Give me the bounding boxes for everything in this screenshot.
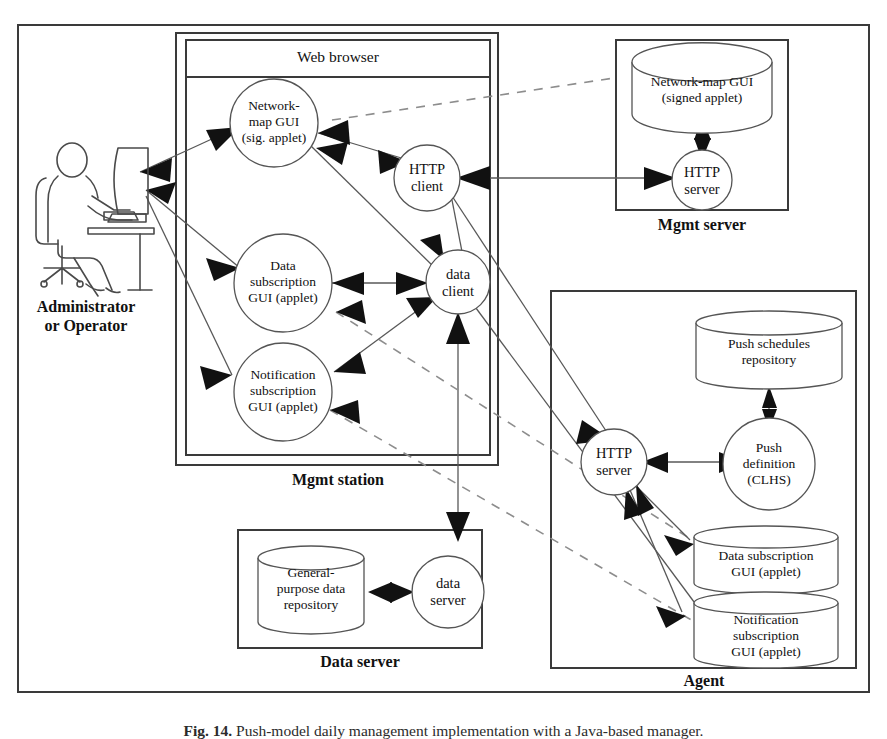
data-subscription-gui-label-2: subscription — [250, 274, 316, 289]
node-agent-data-subscription-gui[interactable]: Data subscription GUI (applet) — [694, 526, 838, 594]
arrowhead-to-mgmthttpserver — [644, 167, 676, 190]
person-leg2-icon — [74, 258, 98, 296]
person-foot2-icon — [86, 284, 104, 290]
push-definition-label-3: (CLHS) — [747, 472, 791, 487]
general-purpose-data-repository-label-2: purpose data — [277, 581, 346, 596]
node-network-map-gui-repo[interactable]: Network-map GUI (signed applet) — [632, 43, 772, 134]
push-definition-label-1: Push — [756, 440, 783, 455]
node-agent-http-server[interactable]: HTTP server — [581, 429, 647, 495]
arrowhead-to-notifsub-2 — [330, 400, 360, 424]
person-front-icon — [86, 176, 98, 198]
data-server-title: Data server — [320, 653, 400, 670]
general-purpose-data-repository-label-1: General- — [287, 565, 335, 580]
arrowhead-to-datasub-from-dataclient — [332, 272, 364, 295]
figure-caption-text: Push-model daily management implementati… — [236, 722, 703, 739]
figure-caption-label: Fig. 14. — [184, 722, 233, 739]
mgmt-server-title: Mgmt server — [658, 216, 746, 234]
arrowhead-to-httpclient-from-mgmtserver — [456, 166, 490, 190]
agent-data-subscription-gui-label-1: Data subscription — [719, 548, 814, 563]
web-browser-box — [186, 40, 490, 455]
node-notification-subscription-gui[interactable]: Notification subscription GUI (applet) — [234, 343, 332, 441]
administrator-label-line1: Administrator — [37, 298, 136, 315]
agent-notification-subscription-gui-label-1: Notification — [733, 612, 798, 627]
person-leg-icon — [58, 240, 112, 290]
arrowhead-to-agenthttp-from-guis-2 — [636, 484, 654, 516]
notification-subscription-gui-label-3: GUI (applet) — [248, 399, 317, 414]
connector-agenthttp-datasubgui — [636, 486, 690, 540]
arrowhead-to-networkmap-from-dataclient — [316, 142, 348, 165]
mgmt-http-server-label-1: HTTP — [684, 164, 720, 180]
node-data-server[interactable]: data server — [412, 556, 484, 628]
figure-root: Web browser — [0, 0, 887, 739]
http-client-label-2: client — [411, 178, 443, 194]
chair-back-icon — [36, 178, 58, 244]
figure-caption: Fig. 14. Push-model daily management imp… — [0, 722, 887, 739]
architecture-diagram: Web browser — [0, 0, 887, 739]
network-map-gui-repo-label-1: Network-map GUI — [651, 74, 754, 89]
push-schedules-repository-label-1: Push schedules — [728, 336, 810, 351]
connector-admin-datasub — [146, 190, 240, 268]
data-client-label-2: client — [442, 283, 474, 299]
arrowhead-to-admin-1 — [140, 158, 172, 182]
network-map-gui-label-2: map GUI — [249, 114, 300, 129]
data-client-label-1: data — [446, 266, 471, 282]
node-push-schedules-repository[interactable]: Push schedules repository — [696, 311, 842, 389]
agent-title: Agent — [684, 672, 726, 690]
http-client-label-1: HTTP — [409, 161, 445, 177]
mgmt-http-server-label-2: server — [684, 181, 720, 197]
administrator-label-line2: or Operator — [45, 317, 128, 335]
arrowhead-to-agentdatasubgui — [664, 535, 694, 556]
desk-top-icon — [88, 228, 154, 234]
arrowhead-to-notifsub-from-dataclient — [334, 352, 366, 374]
agent-notification-subscription-gui-label-2: subscription — [733, 628, 799, 643]
person-head-icon — [57, 143, 87, 177]
connector-admin-notifsub — [146, 196, 232, 375]
arrowhead-to-dataclient-bottom — [446, 312, 470, 344]
push-schedules-repository-label-2: repository — [742, 352, 797, 367]
agent-http-server-label-1: HTTP — [596, 445, 632, 461]
node-data-subscription-gui[interactable]: Data subscription GUI (applet) — [234, 234, 332, 332]
arrowhead-to-networkmap-from-http — [318, 120, 350, 145]
node-mgmt-http-server[interactable]: HTTP server — [672, 150, 732, 210]
agent-data-subscription-gui-label-2: GUI (applet) — [731, 564, 800, 579]
node-data-client[interactable]: data client — [426, 250, 490, 314]
node-http-client[interactable]: HTTP client — [394, 145, 460, 211]
agent-notification-subscription-gui-label-3: GUI (applet) — [731, 644, 800, 659]
agent-http-server-label-2: server — [596, 462, 632, 478]
arrowhead-to-datarepo — [368, 582, 392, 603]
person-foot-icon — [106, 288, 120, 293]
mgmt-station-box — [176, 33, 498, 465]
data-subscription-gui-label-1: Data — [270, 258, 295, 273]
connector-httpclient-agenthttp — [452, 196, 612, 440]
data-server-label-1: data — [436, 575, 461, 591]
network-map-gui-repo-label-2: (signed applet) — [662, 90, 743, 105]
node-general-purpose-data-repository[interactable]: General- purpose data repository — [258, 546, 364, 634]
arrowhead-to-notifsub — [200, 366, 232, 390]
node-network-map-gui[interactable]: Network- map GUI (sig. applet) — [230, 79, 318, 167]
arrowhead-to-datasub-2 — [336, 300, 366, 324]
data-client-circle[interactable] — [426, 250, 490, 314]
chair-legs-icon — [44, 268, 80, 284]
node-push-definition[interactable]: Push definition (CLHS) — [723, 418, 815, 510]
connector-dashed-networkmap-applet — [332, 78, 614, 120]
data-server-label-2: server — [430, 592, 466, 608]
monitor-icon — [114, 148, 148, 214]
web-browser-title: Web browser — [297, 48, 380, 65]
arrowhead-to-dataclient-from-datasub — [396, 272, 428, 295]
mgmt-station-title: Mgmt station — [292, 471, 384, 489]
general-purpose-data-repository-label-3: repository — [284, 597, 339, 612]
notification-subscription-gui-label-1: Notification — [250, 367, 315, 382]
network-map-gui-label-3: (sig. applet) — [242, 130, 306, 145]
push-definition-label-2: definition — [743, 456, 796, 471]
network-map-gui-label-1: Network- — [248, 98, 300, 113]
administrator-figure — [36, 143, 154, 296]
data-subscription-gui-label-3: GUI (applet) — [248, 290, 317, 305]
arrowhead-to-dataserver — [446, 512, 470, 542]
mgmt-http-server-circle[interactable] — [672, 150, 732, 210]
person-back-icon — [48, 176, 58, 242]
notification-subscription-gui-label-2: subscription — [250, 383, 316, 398]
arrowhead-to-dataservernode — [390, 582, 414, 603]
node-agent-notification-subscription-gui[interactable]: Notification subscription GUI (applet) — [694, 592, 838, 668]
